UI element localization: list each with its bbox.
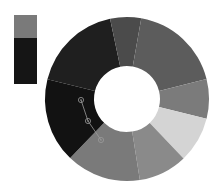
donut-segment-b (133, 18, 207, 91)
annotation-marker-dot-icon (87, 120, 89, 122)
annotation-marker-dot-icon (80, 99, 82, 101)
donut-segment-h (47, 19, 120, 91)
donut-segments (45, 17, 209, 181)
annotation-marker-dot-icon (100, 139, 102, 141)
donut-chart (0, 0, 220, 195)
